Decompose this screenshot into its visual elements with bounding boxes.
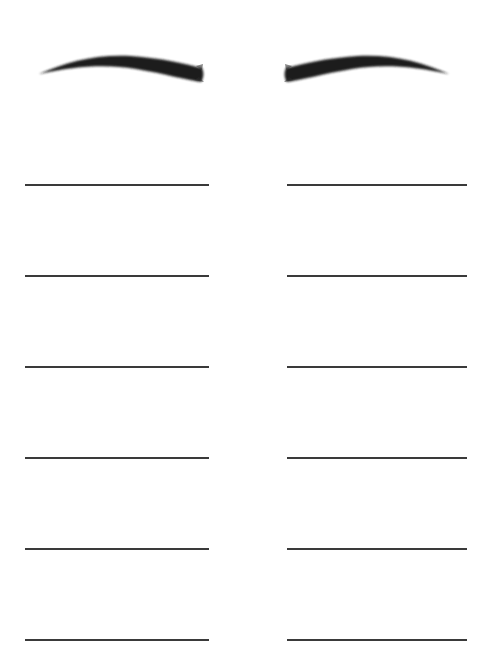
writing-line (25, 639, 209, 641)
writing-line (287, 548, 467, 550)
right-writing-column (287, 0, 467, 667)
writing-line (287, 457, 467, 459)
writing-line (25, 275, 209, 277)
writing-line (25, 457, 209, 459)
writing-line (287, 639, 467, 641)
writing-line (287, 275, 467, 277)
writing-line (25, 548, 209, 550)
writing-line (25, 366, 209, 368)
practice-sheet (0, 0, 491, 667)
writing-line (287, 366, 467, 368)
writing-line (25, 184, 209, 186)
left-writing-column (25, 0, 209, 667)
writing-line (287, 184, 467, 186)
